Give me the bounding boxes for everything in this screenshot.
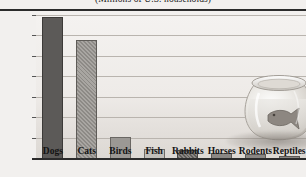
fishbowl-with-goldfish-icon: [232, 59, 306, 159]
y-tick-mark: [32, 15, 36, 16]
y-tick-mark: [32, 97, 36, 98]
x-tick-label-fish: Fish: [137, 146, 171, 156]
y-tick-mark: [32, 76, 36, 77]
y-tick-mark: [32, 35, 36, 36]
x-tick-label-horses: Horses: [205, 146, 239, 156]
bar-chart-figure: (Millions of U.S. households): [0, 0, 306, 177]
bar-dogs: [42, 17, 63, 159]
x-tick-label-dogs: Dogs: [36, 146, 70, 156]
x-axis-baseline: [32, 158, 306, 160]
top-rule: [0, 9, 306, 11]
gridline: [36, 15, 306, 16]
x-tick-label-rodents: Rodents: [239, 146, 273, 156]
x-tick-label-cats: Cats: [70, 146, 104, 156]
x-tick-label-rabbits: Rabbits: [171, 146, 205, 156]
y-tick-mark: [32, 138, 36, 139]
plot-area: [36, 15, 306, 159]
x-tick-label-birds: Birds: [104, 146, 138, 156]
chart-title: (Millions of U.S. households): [0, 0, 306, 4]
y-tick-mark: [32, 56, 36, 57]
y-tick-mark: [32, 117, 36, 118]
bar-cats: [76, 40, 97, 159]
x-tick-label-reptiles: Reptiles: [272, 146, 306, 156]
gridline: [36, 35, 306, 36]
